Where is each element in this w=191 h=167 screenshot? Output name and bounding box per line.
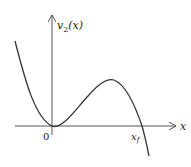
potential-diagram: v2(x) x 0 xf — [0, 0, 191, 167]
y-axis-label: v2(x) — [57, 19, 83, 34]
curve-v2 — [15, 41, 149, 156]
origin-label: 0 — [43, 131, 49, 142]
x-axis-label: x — [180, 120, 187, 133]
root-label: xf — [131, 131, 141, 144]
